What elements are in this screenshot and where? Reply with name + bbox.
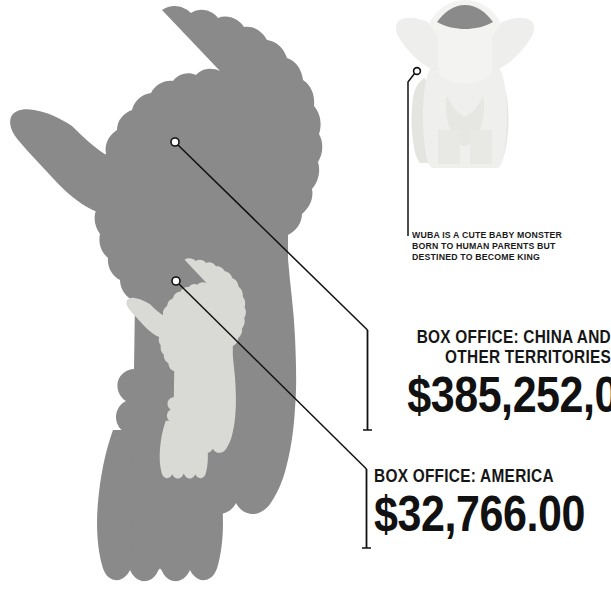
china-label-line-2: OTHER TERRITORIES xyxy=(402,347,611,367)
leader-marker-america xyxy=(172,277,180,285)
caption-line-3: DESTINED TO BECOME KING xyxy=(412,251,587,262)
america-label-line-1: BOX OFFICE: AMERICA xyxy=(374,466,550,486)
infographic-poster: WUBA IS A CUTE BABY MONSTER BORN TO HUMA… xyxy=(0,0,611,602)
wuba-small-figure xyxy=(396,0,534,168)
stat-block-america: BOX OFFICE: AMERICA $32,766.00 xyxy=(374,466,574,540)
leader-marker-caption xyxy=(414,68,421,75)
wuba-caption: WUBA IS A CUTE BABY MONSTER BORN TO HUMA… xyxy=(412,229,602,263)
america-amount: $32,766.00 xyxy=(374,488,546,540)
wuba-large-silhouette xyxy=(10,6,322,581)
china-amount: $385,252,051 xyxy=(407,369,611,421)
leader-marker-china xyxy=(171,138,179,146)
caption-line-2: BORN TO HUMAN PARENTS BUT xyxy=(412,240,587,251)
china-label-line-1: BOX OFFICE: CHINA AND xyxy=(402,327,611,347)
stat-block-china: BOX OFFICE: CHINA AND OTHER TERRITORIES … xyxy=(374,327,611,421)
caption-line-1: WUBA IS A CUTE BABY MONSTER xyxy=(412,229,587,240)
